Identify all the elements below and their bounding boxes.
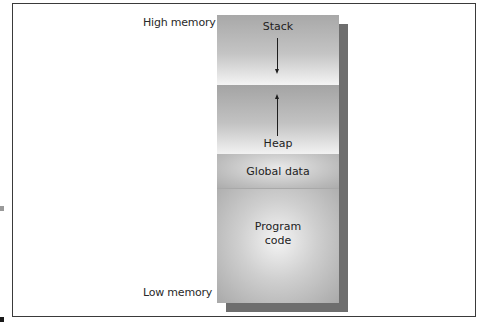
margin-marker-gray [0,206,4,211]
stack-segment: Stack [217,15,339,85]
program-code-label: Program code [217,220,339,248]
arrow-up-icon [277,98,278,136]
global-data-label: Global data [217,165,339,179]
memory-column: Stack Heap Global data Program code [217,15,339,303]
margin-marker-black [0,317,4,322]
high-memory-label: High memory [143,16,216,29]
low-memory-label: Low memory [143,286,212,299]
heap-label: Heap [217,137,339,151]
heap-segment: Heap [217,85,339,154]
global-data-segment: Global data [217,154,339,189]
program-code-segment: Program code [217,189,339,303]
arrow-down-icon [277,38,278,70]
stack-label: Stack [217,20,339,34]
